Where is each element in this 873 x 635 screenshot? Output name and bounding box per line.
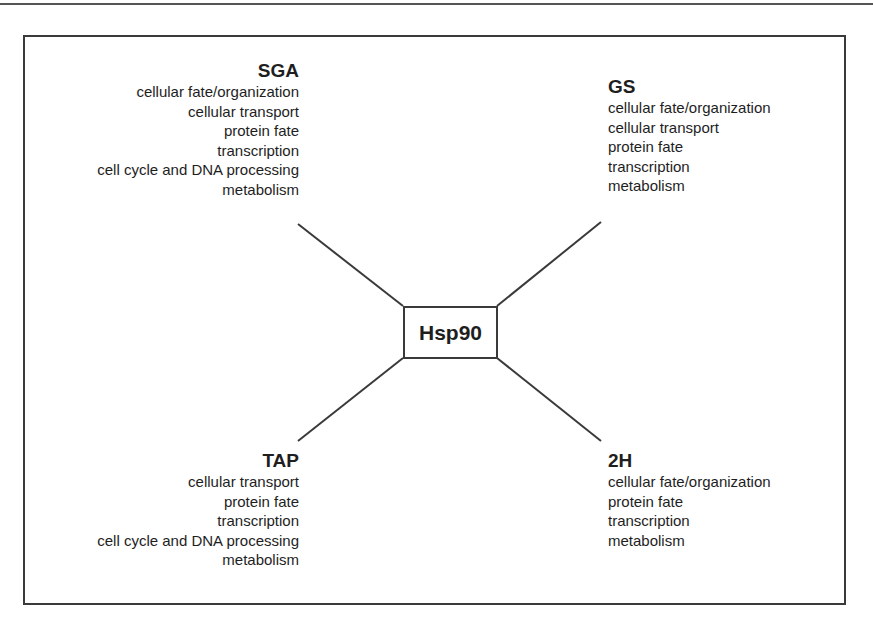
2h-item: protein fate [608,492,771,512]
sga-item: protein fate [97,121,299,141]
2h-group: 2H cellular fate/organization protein fa… [608,450,771,550]
tap-item: protein fate [97,492,299,512]
2h-item: metabolism [608,531,771,551]
connector-gs [497,222,601,306]
sga-title: SGA [97,60,299,82]
connector-tap [298,358,403,441]
sga-item: cell cycle and DNA processing [97,160,299,180]
connector-2h [497,358,601,441]
tap-group: TAP cellular transport protein fate tran… [97,450,299,570]
2h-item: cellular fate/organization [608,472,771,492]
tap-title: TAP [97,450,299,472]
sga-item: transcription [97,141,299,161]
sga-item: cellular fate/organization [97,82,299,102]
connector-sga [298,224,403,306]
gs-item: cellular transport [608,118,771,138]
gs-item: protein fate [608,137,771,157]
hsp90-node: Hsp90 [403,306,498,359]
gs-item: metabolism [608,176,771,196]
hsp90-label: Hsp90 [419,321,482,345]
tap-item: transcription [97,511,299,531]
gs-item: transcription [608,157,771,177]
gs-item: cellular fate/organization [608,98,771,118]
tap-item: cell cycle and DNA processing [97,531,299,551]
gs-group: GS cellular fate/organization cellular t… [608,76,771,196]
2h-item: transcription [608,511,771,531]
2h-title: 2H [608,450,771,472]
gs-title: GS [608,76,771,98]
sga-group: SGA cellular fate/organization cellular … [97,60,299,199]
tap-item: metabolism [97,550,299,570]
tap-item: cellular transport [97,472,299,492]
sga-item: metabolism [97,180,299,200]
sga-item: cellular transport [97,102,299,122]
